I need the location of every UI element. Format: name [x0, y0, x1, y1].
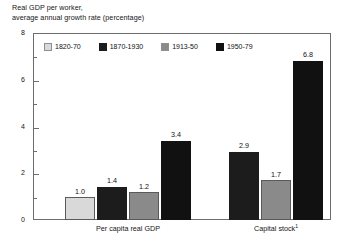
- legend-item: 1870-1930: [99, 42, 143, 51]
- y-axis-tick-label: 2: [21, 168, 25, 177]
- legend-swatch: [99, 43, 107, 51]
- x-axis-group-label: Capital stock1: [254, 224, 298, 233]
- chart-title-line-1: Real GDP per worker,: [12, 3, 83, 12]
- y-axis-tick-label: 8: [21, 28, 25, 37]
- legend-swatch: [216, 43, 224, 51]
- legend-label: 1950-79: [227, 42, 253, 51]
- chart-title: Real GDP per worker,average annual growt…: [12, 3, 312, 22]
- bar: 1.2: [129, 192, 159, 220]
- legend-item: 1950-79: [216, 42, 253, 51]
- bar-value-label: 6.8: [303, 50, 313, 59]
- bar: 6.8: [293, 61, 323, 220]
- legend-item: 1820-70: [44, 42, 81, 51]
- chart-title-line-2: average annual growth rate (percentage): [12, 13, 144, 22]
- bar-value-label: 1.7: [271, 170, 281, 179]
- legend-swatch: [44, 43, 52, 51]
- x-axis-group-label: Per capita real GDP: [96, 224, 160, 233]
- bars-layer: 1.01.41.23.42.91.76.8: [33, 33, 331, 220]
- bar: 1.4: [97, 187, 127, 220]
- legend-label: 1820-70: [55, 42, 81, 51]
- bar-chart: Real GDP per worker,average annual growt…: [0, 0, 349, 248]
- bar-value-label: 1.2: [139, 182, 149, 191]
- y-axis-tick-label: 6: [21, 75, 25, 84]
- bar-value-label: 1.0: [75, 187, 85, 196]
- y-axis-tick-label: 4: [21, 122, 25, 131]
- bar-value-label: 2.9: [239, 141, 249, 150]
- bar: 3.4: [161, 141, 191, 220]
- x-axis-group-label-text: Capital stock: [254, 224, 295, 233]
- bar: 1.7: [261, 180, 291, 220]
- bar: 1.0: [65, 197, 95, 220]
- legend-item: 1913-50: [161, 42, 198, 51]
- x-axis-group-label-text: Per capita real GDP: [96, 224, 160, 233]
- legend-label: 1913-50: [172, 42, 198, 51]
- chart-legend: 1820-701870-19301913-501950-79: [44, 41, 271, 52]
- bar-value-label: 1.4: [107, 176, 117, 185]
- legend-label: 1870-1930: [110, 42, 143, 51]
- bar-value-label: 3.4: [171, 130, 181, 139]
- y-axis-tick-label: 0: [21, 215, 25, 224]
- bar: 2.9: [229, 152, 259, 220]
- y-axis: 02468: [0, 33, 34, 220]
- footnote-marker: 1: [295, 223, 298, 229]
- legend-swatch: [161, 43, 169, 51]
